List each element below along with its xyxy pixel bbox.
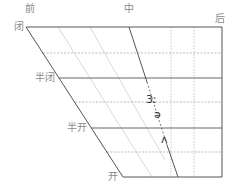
vowel-schwa: ə — [154, 109, 161, 120]
vowel-chart — [0, 0, 235, 191]
label-central: 中 — [124, 4, 134, 14]
vowel-er-long: 3ː — [146, 94, 157, 105]
label-open-mid: 半开 — [67, 123, 87, 133]
central-line-top — [129, 27, 147, 82]
label-close: 闭 — [14, 22, 24, 32]
label-front: 前 — [25, 4, 35, 14]
label-back: 后 — [215, 14, 225, 24]
label-close-mid: 半闭 — [35, 73, 55, 83]
vowel-wedge: ʌ — [161, 134, 168, 145]
label-open: 开 — [108, 172, 118, 182]
central-line-bottom — [167, 145, 178, 177]
